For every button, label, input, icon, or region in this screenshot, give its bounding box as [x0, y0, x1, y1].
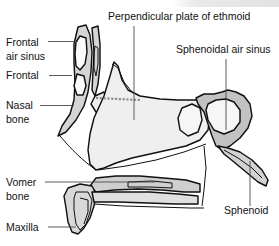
nasal-septum-diagram: Frontal air sinus Frontal Nasal bone Per…	[0, 0, 279, 246]
label-frontal-air-sinus-line2: air sinus	[6, 50, 45, 62]
label-nasal-bone-line2: bone	[6, 113, 30, 125]
palatine-shelf	[92, 192, 198, 204]
label-vomer-bone-line1: Vomer	[6, 176, 37, 188]
label-nasal-bone-line1: Nasal	[6, 99, 33, 111]
label-vomer-bone-line2: bone	[6, 190, 30, 202]
label-maxilla: Maxilla	[6, 221, 39, 233]
anatomy-drawing	[58, 25, 268, 234]
label-frontal-air-sinus-line1: Frontal	[6, 36, 39, 48]
sphenoidal-sinus-anterior-lobe	[178, 104, 202, 136]
label-frontal: Frontal	[6, 69, 39, 81]
label-perpendicular-plate-of-ethmoid: Perpendicular plate of ethmoid	[108, 10, 251, 22]
nasal-bone-shape	[92, 26, 100, 96]
sphenoid-palate-connector	[202, 146, 206, 206]
pterygoid-process	[218, 146, 268, 186]
vomer	[90, 176, 200, 192]
label-sphenoid: Sphenoid	[224, 204, 269, 216]
frontal-sinus-lower-lobe	[74, 74, 86, 95]
anatomy-figure: Frontal air sinus Frontal Nasal bone Per…	[0, 0, 279, 246]
label-sphenoidal-air-sinus: Sphenoidal air sinus	[176, 43, 271, 55]
